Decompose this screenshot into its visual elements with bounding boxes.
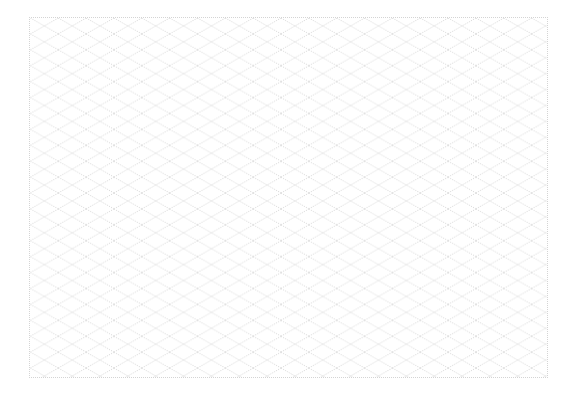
diamond-grid-pattern — [30, 18, 547, 377]
isometric-grid-sheet — [29, 17, 548, 378]
page — [0, 0, 575, 397]
